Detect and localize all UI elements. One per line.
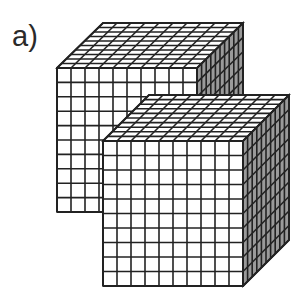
cube-diagram	[0, 0, 297, 290]
front-cube	[103, 95, 289, 286]
